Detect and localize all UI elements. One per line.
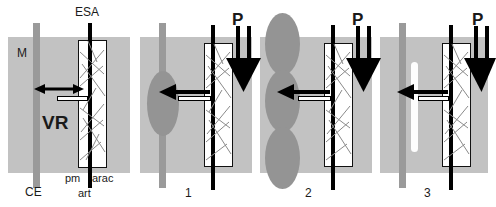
panel-number: 1 [185, 187, 192, 199]
needle [298, 96, 331, 101]
label-ce: CE [25, 186, 42, 198]
ce-bar [33, 23, 40, 188]
esa-line [331, 25, 335, 190]
label-art: art [78, 188, 91, 199]
bleb-ellipse [147, 71, 179, 136]
arachnoid-box [78, 40, 107, 168]
ce-bar [399, 23, 406, 188]
label-pm: pm [65, 173, 80, 184]
label-p: P [472, 11, 483, 28]
white-capsule [411, 62, 418, 152]
arachnoid-box [324, 43, 353, 167]
needle [178, 96, 211, 101]
arachnoid-box [204, 43, 233, 167]
panel-number: 2 [305, 187, 312, 199]
figure-canvas: ESA M CE VR pm arac art P 1 P 2 [0, 0, 496, 207]
tissue-slab [380, 37, 488, 173]
label-p: P [232, 11, 243, 28]
panel-3: P 3 [380, 0, 496, 207]
label-esa: ESA [75, 6, 99, 18]
needle [418, 96, 449, 101]
panel-reference: ESA M CE VR pm arac art [0, 0, 140, 207]
panel-number: 3 [424, 187, 431, 199]
label-arac: arac [92, 173, 113, 184]
esa-line [449, 25, 453, 190]
panel-1: P 1 [140, 0, 260, 207]
bleb-ellipse-bottom [265, 127, 300, 189]
bleb-ellipse-middle [265, 70, 300, 132]
label-p: P [352, 11, 363, 28]
esa-line [211, 25, 215, 190]
arachnoid-box [442, 43, 471, 167]
label-vr: VR [42, 113, 68, 132]
label-m: M [17, 47, 27, 59]
esa-line [88, 23, 92, 188]
bleb-ellipse-top [265, 13, 300, 75]
needle [57, 96, 88, 101]
panel-2: P 2 [260, 0, 380, 207]
